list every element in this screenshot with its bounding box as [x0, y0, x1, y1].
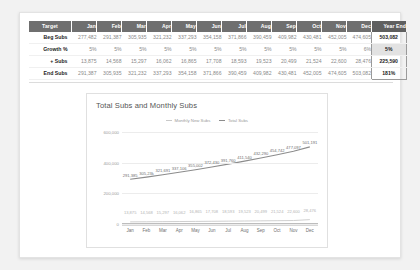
- cell-growth-mar[interactable]: 5%: [122, 44, 147, 56]
- cell-add-subs-mar[interactable]: 15,297: [122, 56, 147, 68]
- row-label-add-subs: + Subs: [29, 56, 72, 68]
- cell-add-subs-year-end[interactable]: 225,590: [372, 56, 407, 68]
- cell-add-subs-nov[interactable]: 22,600: [322, 56, 347, 68]
- cell-end-subs-mar[interactable]: 321,232: [122, 68, 147, 80]
- cell-beg-subs-jul[interactable]: 371,866: [222, 32, 247, 44]
- cell-growth-nov[interactable]: 5%: [322, 44, 347, 56]
- row-label-beg-subs: Beg Subs: [29, 32, 72, 44]
- column-header-aug[interactable]: Aug: [247, 21, 272, 32]
- cell-add-subs-sep[interactable]: 20,499: [272, 56, 297, 68]
- monthly-new-subs-data-label: 15,297: [157, 210, 170, 215]
- cell-growth-jul[interactable]: 5%: [222, 44, 247, 56]
- cell-add-subs-feb[interactable]: 14,568: [97, 56, 122, 68]
- legend-item-monthly-new-subs[interactable]: Monthly New Subs: [166, 118, 210, 123]
- cell-beg-subs-year-end[interactable]: 503,082: [372, 32, 407, 44]
- cell-beg-subs-sep[interactable]: 409,982: [272, 32, 297, 44]
- cell-add-subs-jun[interactable]: 17,708: [197, 56, 222, 68]
- cell-growth-year-end[interactable]: 5%: [372, 44, 407, 56]
- cell-beg-subs-aug[interactable]: 390,459: [247, 32, 272, 44]
- monthly-new-subs-data-label: 17,708: [206, 209, 219, 214]
- column-header-sep[interactable]: Sep: [272, 21, 297, 32]
- total-subs-data-label: 291,385: [123, 173, 138, 178]
- cell-add-subs-dec[interactable]: 28,476: [347, 56, 372, 68]
- total-subs-data-label: 501,191: [302, 140, 317, 145]
- total-subs-data-label: 305,23k: [139, 171, 154, 176]
- cell-end-subs-feb[interactable]: 305,935: [97, 68, 122, 80]
- cell-end-subs-jun[interactable]: 371,866: [197, 68, 222, 80]
- column-header-may[interactable]: May: [172, 21, 197, 32]
- cell-growth-aug[interactable]: 5%: [247, 44, 272, 56]
- cell-growth-jun[interactable]: 5%: [197, 44, 222, 56]
- cell-add-subs-aug[interactable]: 19,523: [247, 56, 272, 68]
- x-axis-tick-label: Feb: [138, 228, 154, 233]
- legend-item-total-subs[interactable]: Total Subs: [219, 118, 248, 123]
- monthly-new-subs-data-label: 20,499: [255, 209, 268, 214]
- cell-end-subs-aug[interactable]: 409,982: [247, 68, 272, 80]
- column-header-jan[interactable]: Jan: [72, 21, 97, 32]
- cell-add-subs-jul[interactable]: 18,593: [222, 56, 247, 68]
- x-axis-tick-label: May: [187, 228, 203, 233]
- monthly-new-subs-data-label: 28,476: [304, 208, 317, 213]
- column-header-year-end[interactable]: Year End: [372, 21, 407, 32]
- cell-growth-oct[interactable]: 5%: [297, 44, 322, 56]
- x-axis-tick-label: Aug: [236, 228, 252, 233]
- column-header-nov[interactable]: Nov: [322, 21, 347, 32]
- x-axis-tick-label: Jan: [122, 228, 138, 233]
- cell-end-subs-jan[interactable]: 291,387: [72, 68, 97, 80]
- row-label-growth-pct: Growth %: [29, 44, 72, 56]
- column-header-dec[interactable]: Dec: [347, 21, 372, 32]
- monthly-new-subs-data-label: 13,875: [124, 210, 137, 215]
- cell-beg-subs-apr[interactable]: 321,232: [147, 32, 172, 44]
- x-axis-tick-label: Mar: [155, 228, 171, 233]
- cell-end-subs-year-end[interactable]: 181%: [372, 68, 407, 80]
- x-axis-tick-label: Nov: [285, 228, 301, 233]
- chart-plot-area: 0200,000400,000600,000291,385305,23k321,…: [122, 132, 318, 224]
- cell-growth-feb[interactable]: 5%: [97, 44, 122, 56]
- cell-end-subs-may[interactable]: 354,158: [172, 68, 197, 80]
- cell-end-subs-oct[interactable]: 452,005: [297, 68, 322, 80]
- cell-add-subs-may[interactable]: 16,865: [172, 56, 197, 68]
- cell-end-subs-jul[interactable]: 390,459: [222, 68, 247, 80]
- cell-growth-apr[interactable]: 5%: [147, 44, 172, 56]
- cell-beg-subs-dec[interactable]: 474,605: [347, 32, 372, 44]
- legend-label-total-subs: Total Subs: [228, 118, 248, 123]
- cell-end-subs-dec[interactable]: 503,082: [347, 68, 372, 80]
- cell-beg-subs-nov[interactable]: 452,005: [322, 32, 347, 44]
- legend-swatch-monthly-new-subs: [166, 120, 172, 121]
- table-row: Growth % 5% 5% 5% 5% 5% 5% 5% 5% 5% 5% 5…: [29, 44, 406, 56]
- cell-add-subs-jan[interactable]: 13,875: [72, 56, 97, 68]
- cell-growth-may[interactable]: 5%: [172, 44, 197, 56]
- cell-end-subs-apr[interactable]: 337,293: [147, 68, 172, 80]
- column-header-jul[interactable]: Jul: [222, 21, 247, 32]
- total-subs-data-label: 321,691: [155, 168, 170, 173]
- cell-beg-subs-oct[interactable]: 430,481: [297, 32, 322, 44]
- legend-swatch-total-subs: [219, 120, 225, 121]
- x-axis-tick-label: Apr: [171, 228, 187, 233]
- column-header-feb[interactable]: Feb: [97, 21, 122, 32]
- monthly-new-subs-data-label: 16,865: [189, 209, 202, 214]
- cell-beg-subs-may[interactable]: 337,293: [172, 32, 197, 44]
- cell-beg-subs-feb[interactable]: 291,387: [97, 32, 122, 44]
- y-axis-tick-label: 400,000: [103, 160, 119, 165]
- column-header-apr[interactable]: Apr: [147, 21, 172, 32]
- column-header-jun[interactable]: Jun: [197, 21, 222, 32]
- chart-legend: Monthly New Subs Total Subs: [87, 118, 327, 123]
- cell-beg-subs-jun[interactable]: 354,158: [197, 32, 222, 44]
- column-header-mar[interactable]: Mar: [122, 21, 147, 32]
- row-label-end-subs: End Subs: [29, 68, 72, 80]
- cell-growth-dec[interactable]: 6%: [347, 44, 372, 56]
- table-header: Target Jan Feb Mar Apr May Jun Jul Aug S…: [29, 21, 406, 32]
- cell-end-subs-nov[interactable]: 474,605: [322, 68, 347, 80]
- cell-growth-sep[interactable]: 5%: [272, 44, 297, 56]
- column-header-target[interactable]: Target: [29, 21, 72, 32]
- cell-beg-subs-mar[interactable]: 305,935: [122, 32, 147, 44]
- cell-add-subs-apr[interactable]: 16,062: [147, 56, 172, 68]
- cell-end-subs-sep[interactable]: 430,481: [272, 68, 297, 80]
- monthly-new-subs-data-label: 16,062: [173, 210, 186, 215]
- table-row: End Subs 291,387 305,935 321,232 337,293…: [29, 68, 406, 80]
- y-axis-tick-label: 0: [117, 222, 119, 227]
- column-header-oct[interactable]: Oct: [297, 21, 322, 32]
- cell-add-subs-oct[interactable]: 21,524: [297, 56, 322, 68]
- cell-growth-jan[interactable]: 5%: [72, 44, 97, 56]
- cell-beg-subs-jan[interactable]: 277,482: [72, 32, 97, 44]
